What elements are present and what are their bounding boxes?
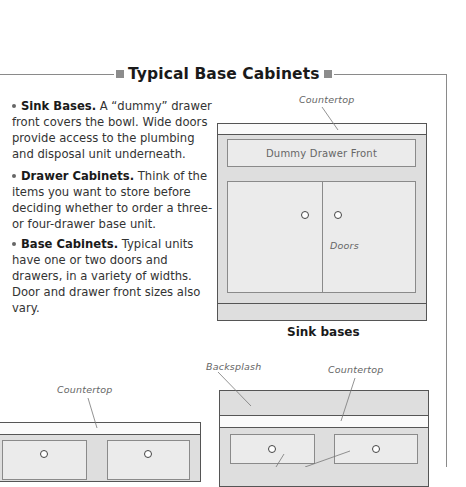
leader-lines bbox=[0, 0, 466, 467]
